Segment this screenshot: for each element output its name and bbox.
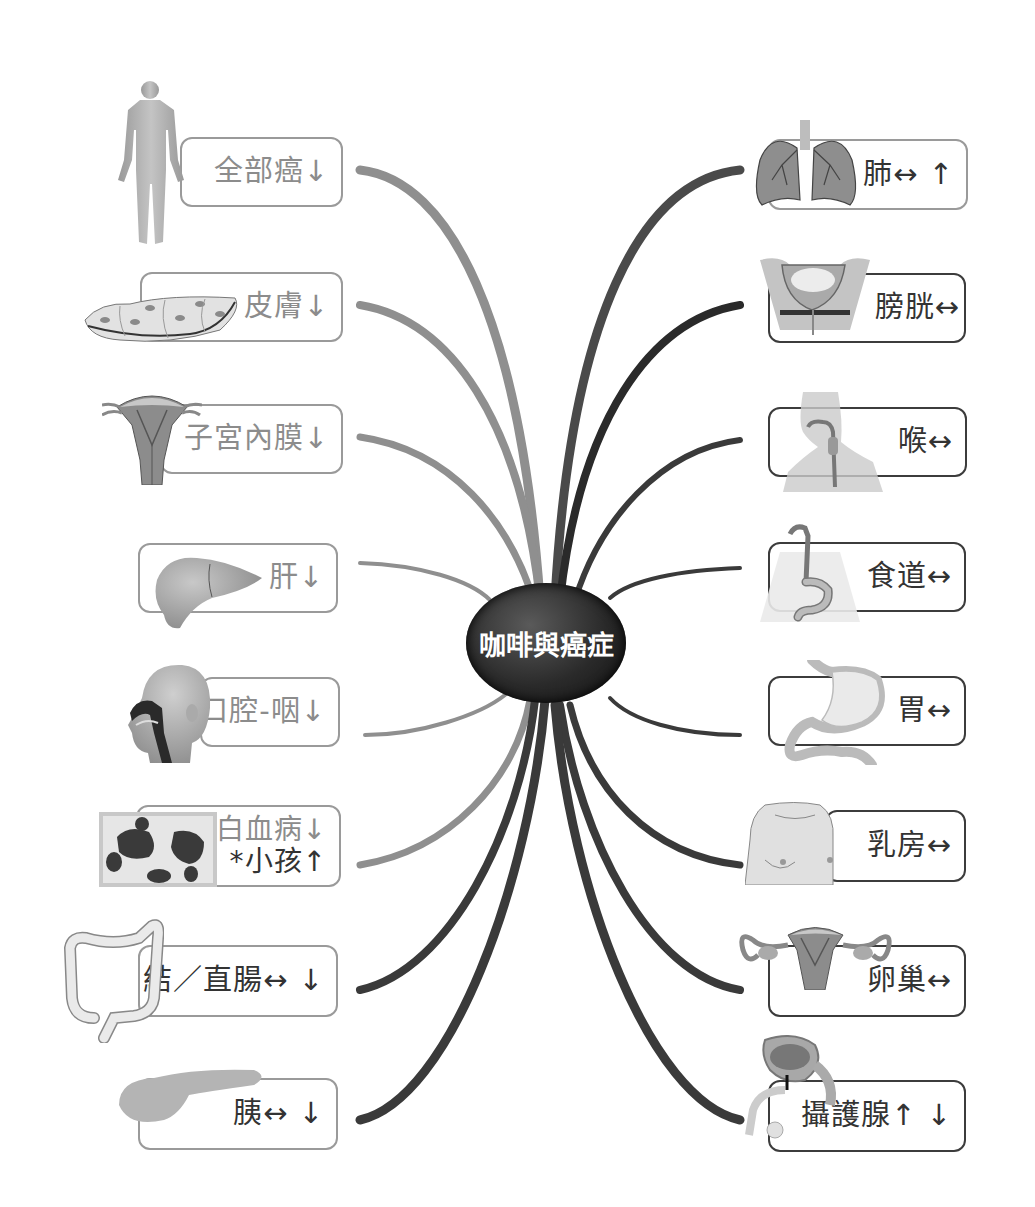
- node-oral-pharynx: 口腔-咽↓: [200, 677, 340, 747]
- node-label: 全部癌↓: [214, 155, 329, 188]
- node-label: 喉↔: [898, 425, 953, 458]
- branch-oral: [365, 695, 505, 735]
- node-label: 肺↔ ↑: [863, 158, 954, 191]
- node-label: 食道↔: [867, 560, 952, 593]
- bladder-icon: [760, 255, 870, 335]
- chest-icon: [745, 800, 840, 885]
- human-body-icon: [110, 78, 190, 248]
- branch-lung: [555, 170, 740, 600]
- branch-colorectal: [360, 700, 535, 990]
- node-all-cancer: 全部癌↓: [180, 137, 343, 207]
- node-label: 口腔-咽↓: [199, 695, 326, 728]
- lungs-icon: [752, 120, 862, 210]
- node-label: 結／直腸↔ ↓: [143, 964, 324, 997]
- esophagus-icon: [760, 522, 860, 622]
- center-node: 咖啡與癌症: [466, 583, 626, 703]
- branch-all-cancer: [360, 170, 540, 600]
- branch-bladder: [560, 305, 740, 600]
- node-label: 子宮內膜↓: [184, 422, 329, 455]
- stomach-icon: [782, 660, 892, 765]
- node-label: 胃↔: [897, 694, 952, 727]
- pancreas-icon: [114, 1060, 269, 1130]
- branch-prostate: [555, 705, 740, 1120]
- mind-map: 咖啡與癌症 全部癌↓ 皮膚↓ 子宮內膜↓: [0, 0, 1035, 1207]
- uterus-icon: [102, 385, 202, 485]
- node-label: 乳房↔: [867, 829, 952, 862]
- throat-icon: [783, 392, 883, 492]
- node-label: 白血病↓ *小孩↑: [216, 814, 327, 878]
- node-colorectal: 結／直腸↔ ↓: [138, 945, 338, 1017]
- node-breast: 乳房↔: [825, 810, 966, 882]
- ovaries-icon: [733, 920, 898, 990]
- colon-icon: [64, 918, 164, 1043]
- blood-cells-icon: [99, 812, 217, 887]
- branch-pancreas: [360, 700, 545, 1120]
- branch-esophagus: [610, 568, 740, 598]
- center-title: 咖啡與癌症: [466, 624, 626, 663]
- node-label: 皮膚↓: [244, 290, 329, 323]
- skin-cells-icon: [80, 290, 245, 345]
- branch-stomach: [610, 698, 740, 735]
- liver-icon: [152, 550, 267, 630]
- node-label: 膀胱↔: [875, 291, 960, 324]
- branch-liver: [360, 563, 490, 600]
- prostate-icon: [745, 1035, 845, 1140]
- head-cross-section-icon: [122, 663, 212, 763]
- node-label: 肝↓: [269, 561, 324, 594]
